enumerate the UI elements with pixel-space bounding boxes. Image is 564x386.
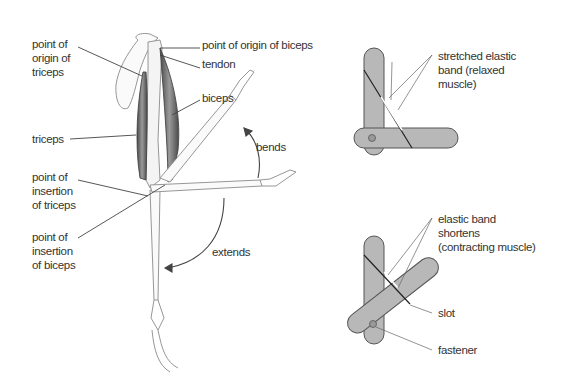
label-bends: bends bbox=[256, 140, 286, 154]
extends-arrowhead bbox=[165, 264, 172, 272]
label-fastener: fastener bbox=[438, 343, 477, 357]
angled-stick bbox=[344, 254, 443, 337]
label-extends: extends bbox=[212, 245, 250, 259]
label-biceps: biceps bbox=[202, 91, 233, 105]
forearm-down bbox=[150, 190, 160, 300]
forearm-horizontal bbox=[150, 180, 262, 192]
fastener-dot bbox=[369, 135, 376, 142]
humerus bbox=[146, 40, 162, 188]
label-stretched-band: stretched elastic band (relaxed muscle) bbox=[438, 49, 516, 91]
model-contracting bbox=[344, 218, 443, 350]
label-slot: slot bbox=[438, 306, 455, 320]
label-triceps: triceps bbox=[32, 132, 64, 146]
arm-drawing bbox=[116, 33, 296, 372]
fastener-dot bbox=[370, 321, 377, 328]
label-insertion-triceps: point of insertion of triceps bbox=[32, 170, 76, 212]
label-origin-triceps: point of origin of triceps bbox=[32, 37, 70, 79]
label-origin-biceps: point of origin of biceps bbox=[202, 38, 313, 52]
triceps-muscle bbox=[137, 72, 147, 180]
label-tendon: tendon bbox=[202, 57, 235, 71]
label-band-shortens: elastic band shortens (contracting muscl… bbox=[438, 212, 536, 254]
label-insertion-biceps: point of insertion of biceps bbox=[32, 230, 75, 272]
